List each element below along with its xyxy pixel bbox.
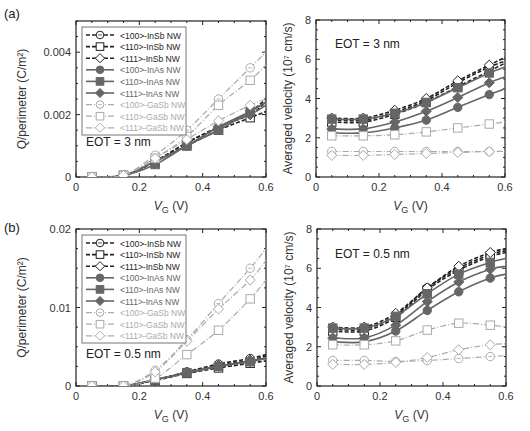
marker-square-icon <box>214 101 222 109</box>
marker-circle-icon <box>423 306 431 314</box>
legend-label: <111>-GaSb NW <box>120 123 184 133</box>
series-group <box>328 248 506 370</box>
y-axis-label: Q/perimeter (C/m²) <box>15 49 29 150</box>
marker-square-icon <box>246 76 254 84</box>
marker-square-icon <box>454 124 462 132</box>
series-line <box>333 356 506 362</box>
chart-canvas: 00.20.40.600.0020.004VG (V)Q/perimeter (… <box>0 0 530 431</box>
marker-square-icon <box>485 69 493 77</box>
marker-circle-icon <box>422 116 430 124</box>
y-tick-label: 0.004 <box>43 46 71 58</box>
marker-square-icon <box>183 350 191 358</box>
marker-square-icon <box>96 286 104 294</box>
marker-square-icon <box>455 319 463 327</box>
x-axis-label: VG (V) <box>394 408 428 424</box>
series-line <box>333 251 506 331</box>
legend-label: <100>-InAs NW <box>120 65 180 75</box>
y-tick-label: 4 <box>306 302 312 314</box>
x-tick-label: 0.2 <box>132 181 147 193</box>
legend-label: <111>-InAs NW <box>120 297 179 307</box>
marker-square-icon <box>96 112 104 120</box>
legend-label: <100>-InAs NW <box>120 273 180 283</box>
legend-label: <100>-InSb NW <box>120 239 181 249</box>
x-axis-label: VG (V) <box>154 199 188 215</box>
legend-label: <111>-InSb NW <box>120 54 180 64</box>
marker-square-icon <box>422 98 430 106</box>
y-tick-label: 0 <box>305 171 311 183</box>
series-line <box>333 344 506 365</box>
x-tick-label: 0.2 <box>371 181 386 193</box>
marker-circle-icon <box>96 274 104 282</box>
y-tick-label: 8 <box>306 223 312 235</box>
marker-circle-icon <box>96 66 104 74</box>
marker-square-icon <box>329 341 337 349</box>
legend-label: <110>-InSb NW <box>120 250 180 260</box>
marker-square-icon <box>486 321 494 329</box>
x-tick-label: 0.6 <box>258 181 273 193</box>
x-tick-label: 0.2 <box>132 390 147 402</box>
legend-label: <110>-GaSb NW <box>120 320 185 330</box>
chart-a-charge: 00.20.40.600.0020.004VG (V)Q/perimeter (… <box>15 21 274 215</box>
chart-b-charge: 00.20.40.600.010.02VG (V)Q/perimeter (C/… <box>15 223 274 424</box>
series-group <box>327 57 505 160</box>
x-tick-label: 0.6 <box>258 390 273 402</box>
marker-diamond-icon <box>485 340 495 350</box>
x-tick-label: 0.6 <box>498 390 513 402</box>
marker-diamond-icon <box>484 78 494 88</box>
marker-circle-icon <box>485 90 493 98</box>
marker-square-icon <box>96 78 104 86</box>
chart-b-velocity: 00.20.40.602468VG (V)Averaged velocity (… <box>282 223 514 424</box>
legend-label: <110>-GaSb NW <box>120 112 185 122</box>
x-tick-label: 0 <box>73 390 79 402</box>
series-line <box>332 89 505 134</box>
marker-square-icon <box>329 324 337 332</box>
marker-square-icon <box>360 324 368 332</box>
legend-label: <100>-InSb NW <box>120 31 181 41</box>
y-tick-label: 0 <box>306 380 312 392</box>
series-line <box>92 359 266 387</box>
series-line <box>332 67 505 119</box>
x-tick-label: 0 <box>314 390 320 402</box>
x-tick-label: 0.4 <box>435 390 450 402</box>
eot-annotation: EOT = 3 nm <box>335 37 400 51</box>
y-tick-label: 0 <box>65 380 71 392</box>
x-tick-label: 0.6 <box>497 181 512 193</box>
marker-square-icon <box>422 128 430 136</box>
marker-square-icon <box>485 120 493 128</box>
eot-annotation: EOT = 0.5 nm <box>335 247 410 261</box>
marker-square-icon <box>423 326 431 334</box>
y-tick-label: 0 <box>65 171 71 183</box>
y-axis-label: Q/perimeter (C/m²) <box>15 257 29 358</box>
marker-circle-icon <box>455 288 463 296</box>
x-tick-label: 0.4 <box>195 181 210 193</box>
y-axis-label: Averaged velocity (10⁷ cm/s) <box>282 231 296 383</box>
legend-label: <100>-GaSb NW <box>120 100 185 110</box>
figure: (a) (b) 00.20.40.600.0020.004VG (V)Q/per… <box>0 0 530 431</box>
series-line <box>333 253 506 333</box>
marker-square-icon <box>360 341 368 349</box>
chart-a-velocity: 00.20.40.602468VG (V)Averaged velocity (… <box>281 14 513 215</box>
y-tick-label: 4 <box>305 93 311 105</box>
eot-annotation: EOT = 3 nm <box>86 135 151 149</box>
legend-label: <110>-InAs NW <box>120 77 180 87</box>
marker-square-icon <box>359 115 367 123</box>
marker-square-icon <box>392 312 400 320</box>
marker-square-icon <box>391 131 399 139</box>
marker-square-icon <box>391 109 399 117</box>
marker-square-icon <box>454 84 462 92</box>
marker-square-icon <box>328 132 336 140</box>
marker-square-icon <box>96 320 104 328</box>
series-line <box>92 358 266 387</box>
marker-square-icon <box>214 326 222 334</box>
legend-label: <110>-InSb NW <box>120 42 180 52</box>
x-tick-label: 0.4 <box>434 181 449 193</box>
legend-label: <110>-InAs NW <box>120 285 180 295</box>
y-axis-label: Averaged velocity (10⁷ cm/s) <box>281 22 295 174</box>
marker-diamond-icon <box>421 106 431 116</box>
legend-label: <111>-InAs NW <box>120 89 179 99</box>
y-tick-label: 6 <box>305 53 311 65</box>
marker-circle-icon <box>454 103 462 111</box>
series-line <box>332 77 505 130</box>
legend-label: <100>-GaSb NW <box>120 308 185 318</box>
marker-diamond-icon <box>453 92 463 102</box>
